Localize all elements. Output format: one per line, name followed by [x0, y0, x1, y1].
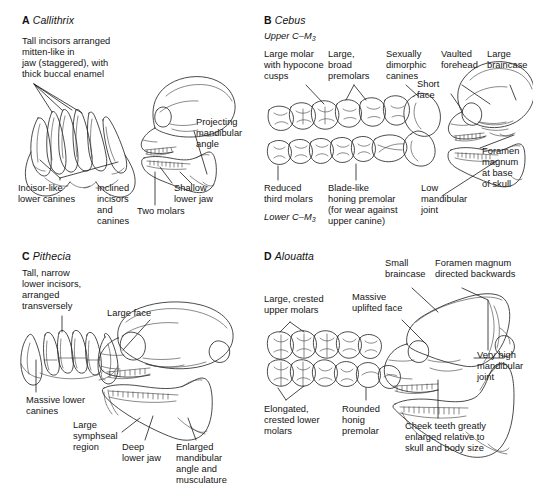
alouatta-mandible [393, 364, 514, 458]
panel-b-artwork [266, 0, 533, 240]
leader-lines-alouatta-lower [278, 386, 366, 400]
callithrix-skull [141, 77, 235, 155]
cebus-mandible [448, 144, 525, 187]
panel-d-alouatta: D Alouatta Large, crested upper molars M… [266, 240, 533, 476]
pithecia-skull [99, 302, 233, 380]
cebus-skull [448, 62, 533, 141]
panel-a-callithrix: A Callithrix Tall incisors arranged mitt… [0, 0, 266, 240]
panel-b-cebus: B Cebus Upper C–M3 Lower C–M3 Large mola… [266, 0, 533, 240]
panel-c-pithecia: C Pithecia Tall, narrow lower incisors, … [0, 240, 266, 476]
callithrix-incisor-arcade [25, 109, 135, 197]
cebus-upper-tooth-row [268, 93, 440, 136]
pithecia-mandible [102, 378, 212, 440]
leader-lines-alouatta-skull [402, 288, 504, 418]
panel-a-artwork [0, 0, 266, 240]
panel-d-artwork [266, 240, 533, 476]
alouatta-skull [384, 294, 514, 394]
alouatta-upper-tooth-row [267, 331, 381, 359]
leader-lines-incisors [34, 84, 82, 113]
callithrix-mandible [142, 152, 217, 193]
leader-lines-mandible [155, 131, 207, 205]
leader-lines-lower-canines [40, 160, 118, 180]
leader-lines-pithecia-skull [122, 320, 196, 440]
pithecia-incisor-row [21, 330, 118, 385]
cebus-lower-tooth-row [267, 131, 435, 166]
alouatta-lower-tooth-row [267, 360, 400, 389]
panel-c-artwork [0, 240, 266, 476]
leader-lines-lower-row [278, 164, 356, 180]
